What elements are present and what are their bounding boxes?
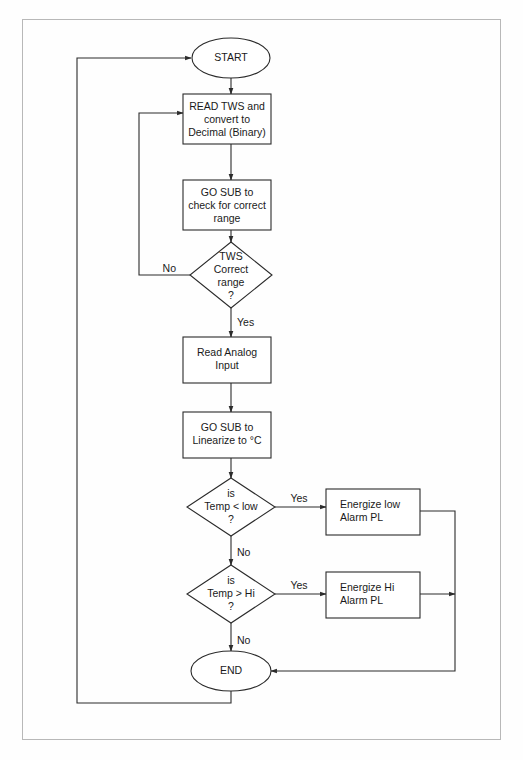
energize-hi-label-line-1: Energize Hi — [340, 581, 394, 593]
gosub-linearize-label-line-2: Linearize to °C — [193, 434, 262, 446]
node-gosub-linearize[interactable]: GO SUB to Linearize to °C — [183, 412, 271, 458]
connector-tws-no-loop — [139, 113, 190, 275]
read-tws-label-line-1: READ TWS and — [189, 100, 265, 112]
temp-hi-label-line-3: ? — [228, 600, 234, 612]
flowchart-page: START READ TWS and convert to Decimal (B… — [0, 0, 523, 760]
node-gosub-range[interactable]: GO SUB to check for correct range — [183, 180, 271, 230]
energize-low-label-line-1: Energize low — [340, 498, 401, 510]
edge-label-tws-yes: Yes — [237, 316, 254, 328]
node-tws-correct-decision[interactable]: TWS Correct range ? — [190, 242, 272, 308]
tws-correct-label-line-4: ? — [228, 289, 234, 301]
edge-label-hi-yes: Yes — [290, 579, 307, 591]
read-tws-label-line-3: Decimal (Binary) — [188, 126, 266, 138]
read-analog-label-line-1: Read Analog — [197, 346, 257, 358]
node-temp-hi-decision[interactable]: is Temp > Hi ? — [187, 565, 275, 623]
read-tws-label-line-2: convert to — [204, 113, 250, 125]
edge-label-tws-no: No — [163, 262, 177, 274]
read-analog-label-line-2: Input — [215, 359, 238, 371]
tws-correct-label-line-1: TWS — [219, 250, 242, 262]
node-read-analog[interactable]: Read Analog Input — [183, 337, 271, 383]
tws-correct-label-line-3: range — [218, 276, 245, 288]
edge-label-low-no: No — [237, 546, 251, 558]
temp-low-label-line-3: ? — [228, 513, 234, 525]
temp-low-label-line-2: Temp < low — [204, 500, 258, 512]
node-start[interactable]: START — [192, 38, 270, 78]
node-energize-hi[interactable]: Energize Hi Alarm PL — [326, 572, 420, 618]
start-label: START — [214, 51, 248, 63]
gosub-range-label-line-3: range — [214, 212, 241, 224]
temp-low-label-line-1: is — [227, 487, 235, 499]
flowchart-diagram: START READ TWS and convert to Decimal (B… — [0, 0, 523, 760]
temp-hi-label-line-2: Temp > Hi — [207, 587, 255, 599]
edge-label-low-yes: Yes — [290, 492, 307, 504]
gosub-range-label-line-1: GO SUB to — [201, 186, 254, 198]
node-end[interactable]: END — [191, 651, 271, 691]
edge-label-hi-no: No — [237, 634, 251, 646]
node-energize-low[interactable]: Energize low Alarm PL — [326, 489, 420, 535]
node-temp-low-decision[interactable]: is Temp < low ? — [187, 478, 275, 536]
node-read-tws[interactable]: READ TWS and convert to Decimal (Binary) — [183, 94, 271, 144]
end-label: END — [220, 664, 243, 676]
energize-low-label-line-2: Alarm PL — [340, 511, 383, 523]
temp-hi-label-line-1: is — [227, 574, 235, 586]
energize-hi-label-line-2: Alarm PL — [340, 594, 383, 606]
tws-correct-label-line-2: Correct — [214, 263, 249, 275]
gosub-range-label-line-2: check for correct — [188, 199, 266, 211]
gosub-linearize-label-line-1: GO SUB to — [201, 421, 254, 433]
